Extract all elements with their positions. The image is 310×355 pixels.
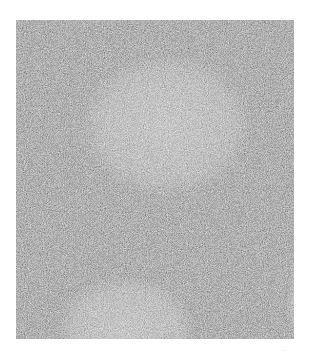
scale-mark: ··· bbox=[281, 348, 286, 353]
micrograph-image bbox=[16, 20, 294, 339]
tissue-texture bbox=[16, 20, 294, 339]
